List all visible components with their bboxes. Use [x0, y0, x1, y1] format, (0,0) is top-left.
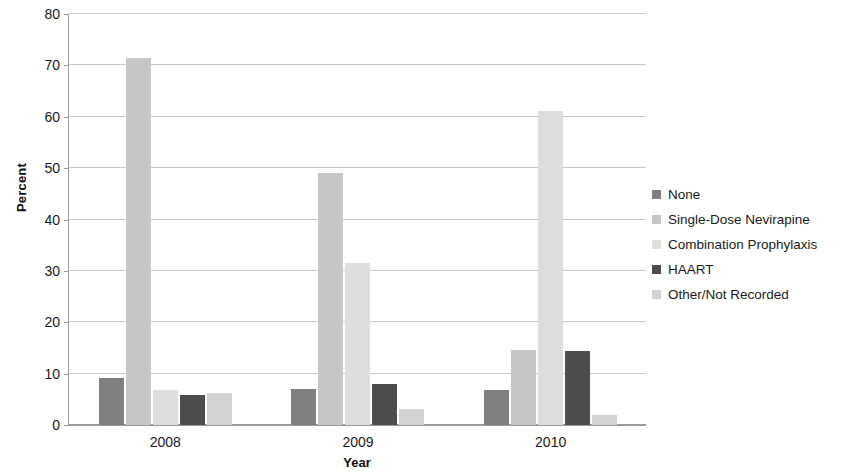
legend-item-label: Combination Prophylaxis	[668, 237, 817, 252]
y-axis-title: Percent	[14, 143, 29, 233]
legend-square-icon	[652, 215, 661, 224]
legend-item-label: Single-Dose Nevirapine	[668, 212, 810, 227]
bars-layer: 200820092010	[69, 14, 646, 425]
y-tick-label: 50	[44, 160, 60, 176]
y-tick-label: 70	[44, 57, 60, 73]
x-tick-label-2008: 2008	[69, 434, 262, 450]
bar-2010-combination-prophylaxis[interactable]	[538, 111, 563, 425]
bar-2009-haart[interactable]	[372, 384, 397, 425]
bar-2010-haart[interactable]	[565, 351, 590, 425]
legend-item-combination-prophylaxis[interactable]: Combination Prophylaxis	[652, 232, 851, 257]
plot-area: 01020304050607080 200820092010	[68, 14, 646, 426]
y-tick-label: 80	[44, 6, 60, 22]
bar-2008-combination-prophylaxis[interactable]	[153, 390, 178, 425]
legend-item-haart[interactable]: HAART	[652, 257, 851, 282]
chart-legend: NoneSingle-Dose NevirapineCombination Pr…	[652, 182, 851, 307]
y-tick-label: 30	[44, 263, 60, 279]
bar-2009-none[interactable]	[291, 389, 316, 425]
legend-item-label: Other/Not Recorded	[668, 287, 789, 302]
bar-chart: Percent 01020304050607080 200820092010 Y…	[0, 0, 851, 476]
legend-item-label: None	[668, 187, 700, 202]
x-tick-label-2010: 2010	[454, 434, 647, 450]
y-tick-mark	[64, 425, 69, 426]
bar-2008-other-not-recorded[interactable]	[207, 393, 232, 425]
bar-2010-none[interactable]	[484, 390, 509, 425]
legend-item-single-dose-nevirapine[interactable]: Single-Dose Nevirapine	[652, 207, 851, 232]
bar-2008-haart[interactable]	[180, 395, 205, 425]
x-tick-label-2009: 2009	[262, 434, 455, 450]
bar-group-2008: 2008	[69, 14, 262, 425]
y-tick-label: 20	[44, 314, 60, 330]
x-axis-title: Year	[68, 455, 646, 470]
bar-2010-other-not-recorded[interactable]	[592, 415, 617, 425]
bar-2009-single-dose-nevirapine[interactable]	[318, 173, 343, 425]
y-tick-label: 60	[44, 109, 60, 125]
legend-square-icon	[652, 240, 661, 249]
y-tick-label: 0	[52, 417, 60, 433]
bar-2008-none[interactable]	[99, 378, 124, 425]
bar-2008-single-dose-nevirapine[interactable]	[126, 58, 151, 425]
bar-group-2010: 2010	[454, 14, 647, 425]
legend-item-none[interactable]: None	[652, 182, 851, 207]
legend-square-icon	[652, 190, 661, 199]
bar-2010-single-dose-nevirapine[interactable]	[511, 350, 536, 425]
legend-item-label: HAART	[668, 262, 714, 277]
legend-item-other-not-recorded[interactable]: Other/Not Recorded	[652, 282, 851, 307]
legend-square-icon	[652, 265, 661, 274]
y-tick-label: 10	[44, 366, 60, 382]
bar-group-2009: 2009	[262, 14, 455, 425]
bar-2009-combination-prophylaxis[interactable]	[345, 263, 370, 425]
y-tick-label: 40	[44, 212, 60, 228]
bar-2009-other-not-recorded[interactable]	[399, 409, 424, 425]
legend-square-icon	[652, 290, 661, 299]
